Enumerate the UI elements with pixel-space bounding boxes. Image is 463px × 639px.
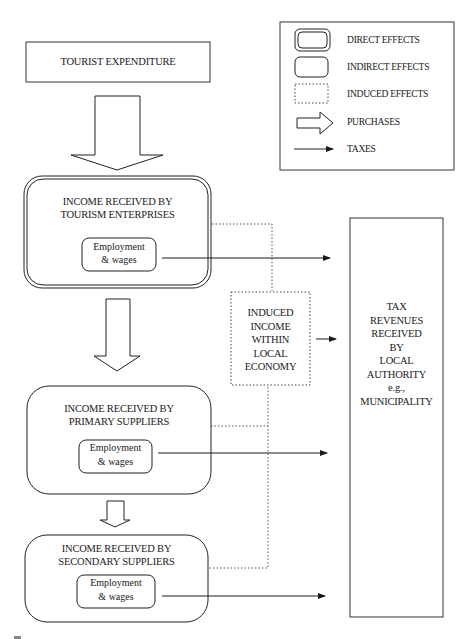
wages-label-3: & wages [77, 590, 155, 603]
tax-line-7: e.g., [350, 381, 443, 395]
legend-label-induced: INDUCED EFFECTS [347, 88, 428, 100]
wages-label-2: & wages [79, 455, 152, 468]
employment-label-2: Employment [79, 441, 152, 454]
tax-line-4: BY [350, 341, 443, 355]
legend-label-indirect: INDIRECT EFFECTS [347, 61, 429, 73]
secondary-suppliers-line2: SECONDARY SUPPLIERS [25, 555, 208, 568]
rounded-box-icon [295, 57, 328, 77]
tax-revenues-label: TAX REVENUES RECEIVED BY LOCAL AUTHORITY… [350, 300, 443, 408]
induced-line-2: INCOME [231, 320, 310, 334]
tax-line-8: MUNICIPALITY [350, 395, 443, 409]
induced-line-5: ECONOMY [231, 360, 310, 374]
legend-label-direct: DIRECT EFFECTS [347, 34, 420, 46]
block-arrow-icon [297, 112, 333, 134]
primary-suppliers-line1: INCOME RECEIVED BY [27, 402, 211, 415]
tourism-enterprises-line1: INCOME RECEIVED BY [24, 195, 211, 208]
tax-revenues-box [350, 218, 443, 617]
tourism-enterprises-line2: TOURISM ENTERPRISES [24, 208, 211, 221]
tax-line-5: LOCAL [350, 354, 443, 368]
primary-suppliers-line2: PRIMARY SUPPLIERS [27, 415, 211, 428]
tax-line-6: AUTHORITY [350, 368, 443, 382]
induced-connectors [208, 224, 272, 568]
induced-line-1: INDUCED [231, 306, 310, 320]
wages-label-1: & wages [82, 253, 156, 266]
purchases-arrow-3 [100, 501, 130, 527]
secondary-suppliers-line1: INCOME RECEIVED BY [25, 542, 208, 555]
legend-label-taxes: TAXES [347, 143, 376, 155]
induced-line-4: LOCAL [231, 347, 310, 361]
employment-label-3: Employment [77, 576, 155, 589]
legend-label-purchases: PURCHASES [347, 116, 400, 128]
tax-line-1: TAX [350, 300, 443, 314]
tourism-enterprises-box [24, 176, 211, 288]
tourist-expenditure-label: TOURIST EXPENDITURE [26, 55, 210, 68]
purchases-arrow-1 [71, 96, 163, 170]
tax-line-2: REVENUES [350, 314, 443, 328]
employment-label-1: Employment [82, 240, 156, 253]
induced-line-3: WITHIN [231, 333, 310, 347]
double-rounded-box-icon [295, 29, 330, 51]
tax-line-3: RECEIVED [350, 327, 443, 341]
induced-income-label: INDUCED INCOME WITHIN LOCAL ECONOMY [231, 306, 310, 374]
dotted-box-icon [295, 84, 328, 103]
purchases-arrow-2 [94, 299, 140, 371]
